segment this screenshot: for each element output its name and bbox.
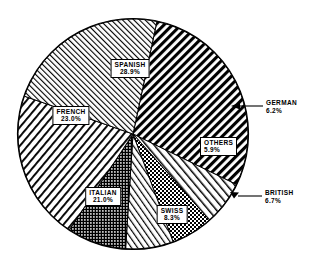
slice-label-spanish-value: 28.9% — [115, 68, 146, 75]
callout-label-british: BRITISH 6.7% — [265, 189, 293, 206]
slice-label-others: OTHERS 5.9% — [200, 137, 237, 156]
slice-label-others-name: OTHERS — [204, 139, 233, 146]
slice-label-french: FRENCH 23.0% — [52, 106, 89, 125]
callout-label-german-name: GERMAN — [266, 99, 297, 107]
slice-label-spanish: SPANISH 28.9% — [111, 59, 150, 78]
callout-label-german-value: 6.2% — [266, 107, 297, 115]
callout-label-british-value: 6.7% — [265, 197, 293, 205]
callout-label-british-name: BRITISH — [265, 189, 293, 197]
slice-label-italian-value: 21.0% — [89, 196, 117, 203]
slice-label-others-value: 5.9% — [204, 146, 233, 153]
callout-label-german: GERMAN 6.2% — [266, 99, 297, 116]
slice-label-italian: ITALIAN 21.0% — [85, 187, 121, 206]
slice-label-italian-name: ITALIAN — [89, 189, 117, 196]
slice-label-french-value: 23.0% — [56, 115, 85, 122]
slice-label-french-name: FRENCH — [56, 108, 85, 115]
pie-chart-svg — [0, 0, 311, 264]
pie-chart: SPANISH 28.9% FRENCH 23.0% ITALIAN 21.0%… — [0, 0, 311, 264]
slice-label-spanish-name: SPANISH — [115, 61, 146, 68]
callout-leader-british — [230, 192, 262, 199]
slice-label-swiss: SWISS 8.3% — [157, 205, 188, 224]
pie-slices — [18, 19, 248, 249]
slice-label-swiss-name: SWISS — [161, 207, 184, 214]
slice-label-swiss-value: 8.3% — [161, 214, 184, 221]
